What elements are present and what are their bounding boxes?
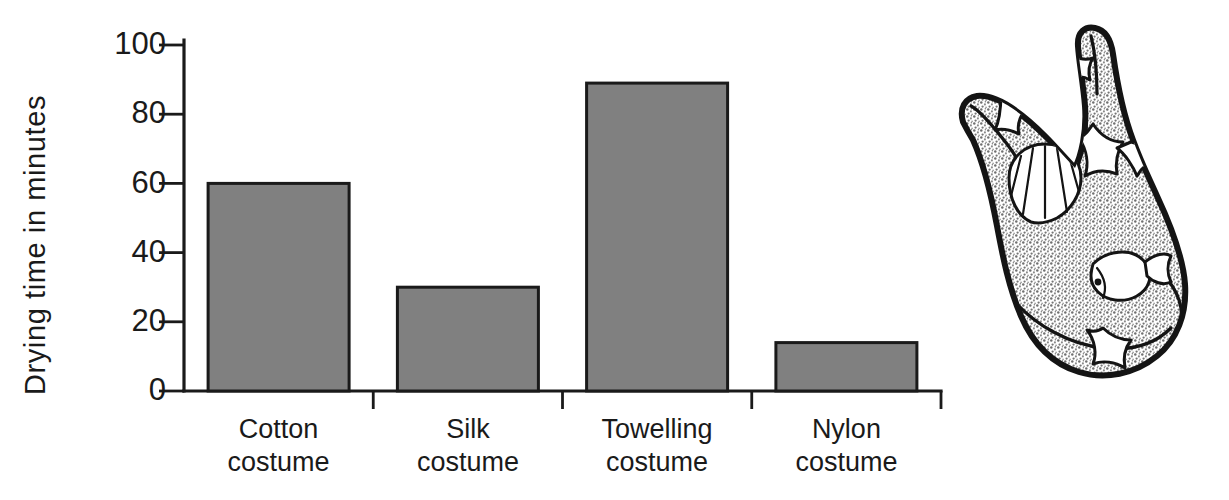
category-label-line: Nylon xyxy=(812,414,881,444)
costume-body xyxy=(962,28,1185,376)
bar-chart-svg: Drying time in minutes 020406080100 Cott… xyxy=(0,0,960,500)
starfish-icon xyxy=(1073,56,1093,80)
bar xyxy=(587,83,728,391)
category-label-line: Silk xyxy=(446,414,490,444)
x-axis-category-label: Towellingcostume xyxy=(602,414,713,477)
swimming-costume-illustration xyxy=(945,10,1229,430)
y-axis-title: Drying time in minutes xyxy=(19,95,51,395)
category-label-line: costume xyxy=(795,447,897,477)
y-axis-tick-labels: 020406080100 xyxy=(114,26,166,407)
y-axis-tick-label: 100 xyxy=(114,26,166,61)
bar xyxy=(776,343,917,391)
bar-chart: Drying time in minutes 020406080100 Cott… xyxy=(0,0,960,500)
y-axis-title-text: Drying time in minutes xyxy=(19,95,51,395)
x-axis-category-label: Nyloncostume xyxy=(795,414,897,477)
category-label-line: costume xyxy=(417,447,519,477)
x-axis-category-label: Silkcostume xyxy=(417,414,519,477)
bar xyxy=(208,183,349,391)
bar xyxy=(397,287,538,391)
fish-tail xyxy=(1145,254,1171,284)
category-label-line: Towelling xyxy=(602,414,713,444)
swimming-costume-svg xyxy=(945,10,1229,430)
chart-page: Drying time in minutes 020406080100 Cott… xyxy=(0,0,1229,500)
bars-group xyxy=(208,83,917,391)
category-label-line: costume xyxy=(606,447,708,477)
x-axis-tick-marks xyxy=(373,391,941,409)
x-axis-category-label: Cottoncostume xyxy=(228,414,330,477)
fish-body xyxy=(1091,252,1150,300)
x-axis-category-labels: CottoncostumeSilkcostumeTowellingcostume… xyxy=(228,414,898,477)
fish-eye xyxy=(1095,279,1102,286)
category-label-line: Cotton xyxy=(239,414,319,444)
category-label-line: costume xyxy=(228,447,330,477)
